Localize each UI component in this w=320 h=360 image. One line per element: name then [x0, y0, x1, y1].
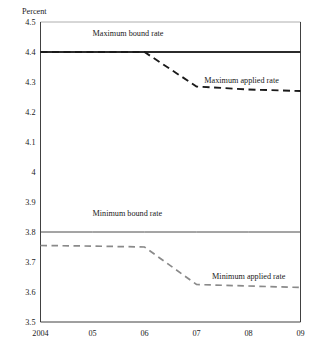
- y-axis-tick-label: 4.1: [25, 138, 35, 147]
- x-axis-tick-labels: 20040506070809: [32, 329, 304, 338]
- y-axis-tick-label: 4.2: [25, 108, 35, 117]
- y-axis-tick-label: 4.3: [25, 78, 35, 87]
- chart-container: 4.54.44.34.24.143.93.83.73.63.5 20040506…: [0, 0, 320, 360]
- x-axis-tick-label: 08: [244, 329, 252, 338]
- y-axis-tick-label: 4.5: [25, 18, 35, 27]
- y-axis-tick-label: 4.4: [25, 48, 35, 57]
- series-label: Minimum bound rate: [93, 209, 163, 218]
- y-axis-tick-label: 3.5: [25, 318, 35, 327]
- series-label: Minimum applied rate: [212, 272, 286, 281]
- series-inline-labels: Maximum bound rateMaximum applied rateMi…: [93, 29, 286, 281]
- series-line: [41, 246, 301, 288]
- series-label: Maximum applied rate: [204, 76, 279, 85]
- y-axis-tick-label: 4: [31, 168, 35, 177]
- y-axis-tick-labels: 4.54.44.34.24.143.93.83.73.63.5: [25, 18, 35, 327]
- series-label: Maximum bound rate: [93, 29, 164, 38]
- y-axis-tick-label: 3.8: [25, 228, 35, 237]
- y-axis-unit-label: Percent: [22, 7, 47, 16]
- x-axis-tick-label: 07: [192, 329, 200, 338]
- y-axis-tick-label: 3.9: [25, 198, 35, 207]
- x-axis-tick-label: 05: [88, 329, 96, 338]
- x-axis-tick-label: 06: [140, 329, 148, 338]
- series-group: [41, 52, 301, 288]
- y-axis-tick-label: 3.6: [25, 288, 35, 297]
- rates-line-chart: 4.54.44.34.24.143.93.83.73.63.5 20040506…: [0, 0, 320, 360]
- x-axis-tick-label: 09: [296, 329, 304, 338]
- x-axis-tick-label: 2004: [32, 329, 48, 338]
- y-axis-tick-label: 3.7: [25, 258, 35, 267]
